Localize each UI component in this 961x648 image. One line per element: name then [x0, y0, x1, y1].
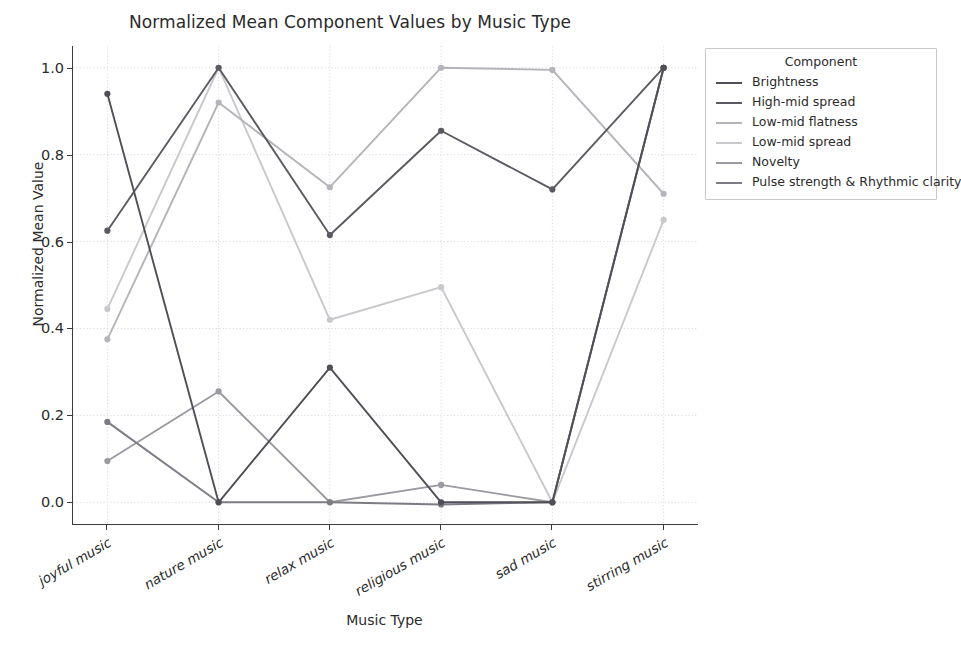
x-tick-label: nature music [44, 534, 225, 648]
x-tick-label: sad music [378, 534, 559, 648]
plot-lines [73, 46, 698, 524]
legend-line-icon [714, 76, 744, 88]
x-axis-tick-marks [72, 525, 697, 531]
legend-item-label: High-mid spread [752, 96, 855, 109]
legend-item[interactable]: Novelty [714, 152, 928, 172]
data-point [216, 388, 222, 394]
data-point [104, 228, 110, 234]
x-tick-mark [106, 525, 107, 530]
data-point [104, 458, 110, 464]
legend-item[interactable]: Pulse strength & Rhythmic clarity [714, 172, 928, 192]
legend-item[interactable]: Low-mid spread [714, 132, 928, 152]
legend-line-icon [714, 116, 744, 128]
data-point [438, 482, 444, 488]
legend-line-icon [714, 156, 744, 168]
data-point [104, 336, 110, 342]
y-tick-label: 0.4 [10, 320, 64, 336]
series-line [107, 68, 663, 505]
data-point [661, 65, 667, 71]
x-tick-label: religious music [267, 534, 448, 648]
y-axis-tick-labels: 0.00.20.40.60.81.0 [8, 46, 64, 524]
plot-area [72, 46, 698, 525]
data-point [661, 217, 667, 223]
data-point [549, 499, 555, 505]
y-tick-label: 0.6 [10, 234, 64, 250]
legend-item[interactable]: High-mid spread [714, 92, 928, 112]
data-point [549, 67, 555, 73]
chart-title: Normalized Mean Component Values by Musi… [0, 12, 700, 32]
legend-entries: BrightnessHigh-mid spreadLow-mid flatnes… [714, 72, 928, 192]
y-tick-label: 1.0 [10, 60, 64, 76]
y-tick-label: 0.2 [10, 407, 64, 423]
data-point [661, 191, 667, 197]
data-point [216, 499, 222, 505]
legend: Component BrightnessHigh-mid spreadLow-m… [705, 48, 937, 200]
legend-item-label: Novelty [752, 156, 800, 169]
y-tick-label: 0.0 [10, 494, 64, 510]
legend-line-icon [714, 176, 744, 188]
x-tick-mark [551, 525, 552, 530]
data-point [438, 284, 444, 290]
x-tick-label: stirring music [489, 534, 670, 648]
legend-item-label: Low-mid spread [752, 136, 851, 149]
data-point [104, 306, 110, 312]
series-line [107, 68, 663, 503]
legend-item-label: Brightness [752, 76, 819, 89]
data-point [104, 419, 110, 425]
legend-line-icon [714, 136, 744, 148]
data-point [104, 91, 110, 97]
legend-item-label: Pulse strength & Rhythmic clarity [752, 176, 961, 189]
x-tick-mark [663, 525, 664, 530]
series-line [107, 68, 663, 235]
data-point [327, 499, 333, 505]
data-point [438, 65, 444, 71]
x-axis-tick-labels: joyful musicnature musicrelax musicrelig… [72, 534, 697, 614]
legend-line-icon [714, 96, 744, 108]
data-point [327, 317, 333, 323]
data-point [549, 186, 555, 192]
y-tick-label: 0.8 [10, 147, 64, 163]
legend-title: Component [714, 54, 928, 69]
legend-item[interactable]: Low-mid flatness [714, 112, 928, 132]
data-point [327, 184, 333, 190]
data-point [327, 364, 333, 370]
data-point [216, 99, 222, 105]
x-tick-mark [218, 525, 219, 530]
x-tick-label: relax music [156, 534, 337, 648]
x-tick-mark [329, 525, 330, 530]
x-tick-mark [440, 525, 441, 530]
series-line [107, 68, 663, 503]
data-point [438, 128, 444, 134]
data-point [216, 65, 222, 71]
data-point [327, 232, 333, 238]
legend-item[interactable]: Brightness [714, 72, 928, 92]
legend-item-label: Low-mid flatness [752, 116, 858, 129]
x-axis-label: Music Type [72, 612, 697, 628]
data-point [438, 499, 444, 505]
series-line [107, 68, 663, 503]
